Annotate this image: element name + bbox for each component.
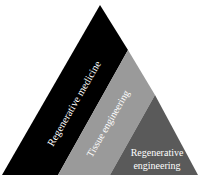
- label-regenerative-engineering-line2: engineering: [133, 160, 180, 171]
- triangle-diagram: Regenerative medicine Tissue engineering…: [0, 0, 200, 181]
- label-regenerative-engineering-line1: Regenerative: [131, 147, 184, 158]
